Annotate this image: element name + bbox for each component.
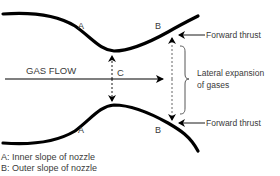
lateral-expansion-brace bbox=[180, 46, 189, 114]
point-c-label: C bbox=[117, 67, 124, 78]
lateral-expansion-label-line1: Lateral expansion bbox=[197, 68, 264, 78]
legend-item-b: B: Outer slope of nozzle bbox=[1, 163, 97, 174]
nozzle-bottom-wall bbox=[3, 105, 198, 151]
lateral-expansion-label-line2: of gases bbox=[197, 80, 229, 90]
forward-thrust-top-label: Forward thrust bbox=[206, 30, 261, 40]
nozzle-diagram: GAS FLOW A B A B C Forward thrust Forwar… bbox=[0, 0, 280, 176]
point-a-top-label: A bbox=[78, 21, 84, 31]
point-b-bottom-label: B bbox=[155, 125, 161, 135]
point-b-top-label: B bbox=[155, 21, 161, 31]
forward-thrust-bottom-label: Forward thrust bbox=[206, 118, 261, 128]
nozzle-top-wall bbox=[3, 13, 198, 51]
legend-item-a: A: Inner slope of nozzle bbox=[1, 152, 97, 163]
point-a-bottom-label: A bbox=[78, 125, 84, 135]
legend: A: Inner slope of nozzle B: Outer slope … bbox=[1, 152, 97, 174]
gas-flow-label: GAS FLOW bbox=[26, 65, 76, 76]
